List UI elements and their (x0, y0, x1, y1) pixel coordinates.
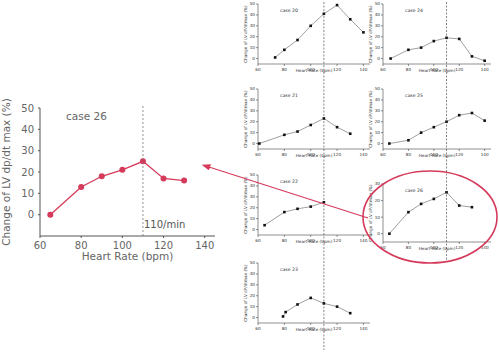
y-axis-label: Change of LV dP/dtmax (%) (243, 5, 248, 63)
data-point (309, 297, 312, 300)
x-axis-label: Heart Rate (bpm) (419, 246, 456, 251)
data-point (458, 38, 461, 41)
data-point (161, 175, 167, 181)
y-tick-label: 40 (375, 12, 381, 17)
data-point (274, 56, 277, 59)
callout-arrow (209, 167, 368, 218)
data-point (309, 124, 312, 127)
y-tick-label: 40 (250, 183, 256, 188)
y-tick-label: 10 (375, 130, 381, 135)
x-tick-label: 120 (333, 67, 341, 72)
y-tick-label: 0 (252, 227, 255, 232)
y-tick-label: 0 (28, 209, 34, 220)
y-tick-label: 30 (250, 23, 256, 28)
y-tick-label: 40 (375, 97, 381, 102)
data-point (349, 18, 352, 21)
data-point (336, 126, 339, 129)
data-point (388, 142, 391, 145)
data-point (349, 132, 352, 135)
x-tick-label: 140 (481, 152, 489, 157)
y-tick-label: 30 (375, 23, 381, 28)
x-tick-label: 80 (282, 67, 288, 72)
chart-case26_large: 010203040506080100120140Heart Rate (bpm)… (0, 98, 215, 262)
data-point (336, 4, 339, 7)
data-point (78, 184, 84, 190)
y-tick-label: 20 (375, 34, 381, 39)
y-tick-label: 40 (21, 124, 34, 135)
data-point (407, 211, 410, 214)
chart-case21: 010203040506080100120140Heart Rate (bpm)… (243, 86, 370, 158)
chart-title: case 26 (66, 110, 107, 122)
x-tick-label: 120 (333, 152, 341, 157)
x-tick-label: 120 (455, 245, 463, 250)
data-point (296, 303, 299, 306)
x-tick-label: 80 (406, 67, 412, 72)
y-tick-label: 30 (250, 194, 256, 199)
data-point (483, 59, 486, 62)
data-point (283, 134, 286, 137)
y-axis-label: Change of LV dP/dtmax (%) (243, 264, 248, 322)
x-tick-label: 120 (333, 238, 341, 243)
y-tick-label: 10 (250, 45, 256, 50)
y-tick-label: 50 (21, 103, 34, 114)
data-point (420, 46, 423, 49)
data-point (99, 173, 105, 179)
y-tick-label: 20 (250, 119, 256, 124)
data-point (433, 40, 436, 43)
x-tick-label: 80 (282, 238, 288, 243)
y-tick-label: 30 (21, 145, 34, 156)
y-tick-label: 0 (377, 141, 380, 146)
y-tick-label: 20 (250, 34, 256, 39)
x-tick-label: 60 (34, 240, 47, 251)
x-axis-label: Heart Rate (bpm) (296, 327, 333, 332)
data-point (471, 206, 474, 209)
y-tick-label: 0 (377, 231, 380, 236)
y-tick-label: 20 (375, 119, 381, 124)
data-point (309, 205, 312, 208)
x-axis-label: Heart Rate (bpm) (419, 68, 456, 73)
y-tick-label: 10 (250, 216, 256, 221)
figure-canvas: 010203040506080100120140Heart Rate (bpm)… (0, 0, 499, 355)
chart-case23: 010203040506080100120140Heart Rate (bpm)… (243, 260, 370, 332)
y-tick-label: 30 (250, 108, 256, 113)
y-axis-label: Change of LV dP/dtmax (%) (243, 176, 248, 234)
y-tick-label: 0 (377, 56, 380, 61)
composite-figure: 010203040506080100120140Heart Rate (bpm)… (0, 0, 499, 355)
data-point (407, 49, 410, 52)
x-tick-label: 60 (380, 152, 386, 157)
data-line (50, 161, 184, 214)
x-tick-label: 60 (380, 67, 386, 72)
data-point (284, 311, 287, 314)
x-tick-label: 140 (481, 67, 489, 72)
data-point (47, 212, 53, 218)
data-point (296, 39, 299, 42)
y-tick-label: 10 (375, 215, 381, 220)
chart-case24: 010203040506080100120140Heart Rate (bpm)… (368, 1, 491, 73)
y-tick-label: 40 (250, 271, 256, 276)
x-axis-label: Heart Rate (bpm) (296, 239, 333, 244)
y-tick-label: 20 (250, 293, 256, 298)
y-tick-label: 40 (250, 97, 256, 102)
data-point (282, 315, 285, 318)
data-point (433, 198, 436, 201)
y-tick-label: 30 (375, 181, 381, 186)
data-point (389, 57, 392, 60)
y-tick-label: 30 (250, 282, 256, 287)
data-point (349, 312, 352, 315)
x-axis-label: Heart Rate (bpm) (419, 153, 456, 158)
data-point (388, 232, 391, 235)
y-tick-label: 10 (375, 45, 381, 50)
x-tick-label: 120 (333, 326, 341, 331)
y-tick-label: 30 (375, 108, 381, 113)
chart-title: case 24 (405, 8, 423, 13)
data-line (259, 118, 350, 143)
x-tick-label: 140 (359, 238, 367, 243)
y-tick-label: 10 (21, 188, 34, 199)
y-tick-label: 20 (250, 205, 256, 210)
y-tick-label: 50 (250, 86, 256, 91)
y-tick-label: 50 (375, 86, 381, 91)
y-tick-label: 0 (252, 141, 255, 146)
data-point (420, 203, 423, 206)
x-tick-label: 60 (255, 238, 261, 243)
y-tick-label: 0 (252, 56, 255, 61)
